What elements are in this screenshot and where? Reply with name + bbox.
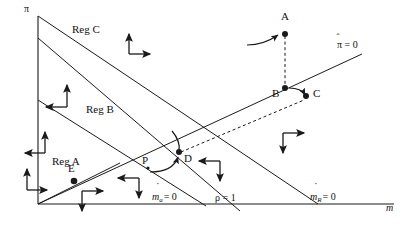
region-label-reg-b: Reg B <box>86 104 114 115</box>
point-marker-e <box>71 178 78 185</box>
isocline-label-m-r-tail: = 0 <box>323 191 336 202</box>
isocline-label-pi-tail: = 0 <box>342 39 358 50</box>
dashed-path-d-to-c <box>181 100 304 152</box>
isocline-label-m-a-symbol: m <box>152 191 159 202</box>
curve-approaching-a <box>247 35 278 45</box>
point-label-c: C <box>313 88 320 99</box>
curve-p-through-d <box>150 157 178 172</box>
vector-arrow-reg-c <box>129 34 150 54</box>
isocline-label-m-a-dot-zero: ˙ m a= 0 <box>152 192 177 204</box>
isocline-label-pi-symbol: π <box>337 39 342 50</box>
isocline-label-m-r-symbol: m <box>310 191 317 202</box>
region-label-reg-c: Reg C <box>72 24 100 35</box>
isocline-lower-left-segment <box>38 163 120 204</box>
vector-arrow-reg-b-lower <box>25 132 45 153</box>
point-label-d: D <box>184 153 192 164</box>
dashed-paths-group <box>181 36 304 152</box>
diagram-canvas <box>0 0 408 239</box>
isocline-label-m-a-tail: = 0 <box>164 191 177 202</box>
vector-arrow-reg-b-upper <box>46 85 67 107</box>
isocline-label-m-a-subscript: a <box>159 196 163 204</box>
vector-field-arrows-group <box>25 34 304 211</box>
isocline-label-rho-one: ρ = 1 <box>215 193 236 203</box>
isocline-label-pi-hat-zero: ̂ π = 0 <box>337 40 358 50</box>
m-axis-label: m <box>386 203 393 213</box>
point-marker-a <box>282 31 288 37</box>
point-label-b: B <box>272 88 279 99</box>
vector-arrow-near-p <box>118 178 139 198</box>
point-marker-d <box>176 149 182 155</box>
phase-diagram-figure: π m Reg C Reg B Reg A A B C D E P ̂ π = … <box>0 0 408 239</box>
region-label-reg-a: Reg A <box>52 156 80 167</box>
point-label-a: A <box>281 11 289 22</box>
pi-axis-label: π <box>24 4 29 14</box>
vector-arrow-below-e <box>82 191 103 211</box>
isocline-m-r-dot-zero <box>38 16 318 204</box>
point-marker-b <box>282 85 288 91</box>
point-marker-c <box>303 93 309 99</box>
point-marker-p <box>146 166 149 169</box>
isocline-label-m-r-dot-zero: ˙ m R= 0 <box>310 192 336 204</box>
curve-b-to-c <box>289 88 305 95</box>
point-label-e: E <box>68 163 75 174</box>
point-label-p: P <box>142 155 148 166</box>
vector-arrow-reg-a <box>27 169 47 190</box>
vector-arrow-far-right <box>283 133 304 153</box>
isocline-label-m-r-subscript: R <box>317 196 321 204</box>
trajectory-curves-group <box>150 35 305 172</box>
